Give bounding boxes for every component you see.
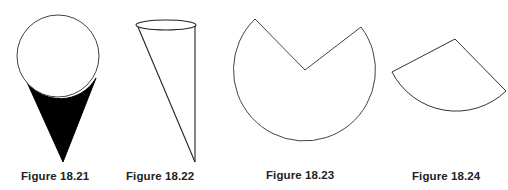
figure-18-24 — [392, 39, 506, 111]
cone-slant-edge — [138, 27, 195, 162]
cut-circle-outline — [233, 19, 375, 141]
caption-figure-18-21: Figure 18.21 — [21, 170, 89, 182]
figure-18-21 — [17, 15, 99, 162]
caption-figure-18-23: Figure 18.23 — [266, 169, 334, 181]
figure-18-22 — [136, 20, 196, 162]
figure-18-23 — [233, 19, 375, 141]
caption-figure-18-24: Figure 18.24 — [412, 170, 480, 182]
sphere — [17, 15, 99, 97]
cone-base-ellipse — [136, 20, 196, 30]
caption-figure-18-22: Figure 18.22 — [126, 170, 194, 182]
figures-canvas — [0, 0, 508, 190]
sector-outline — [392, 39, 506, 111]
